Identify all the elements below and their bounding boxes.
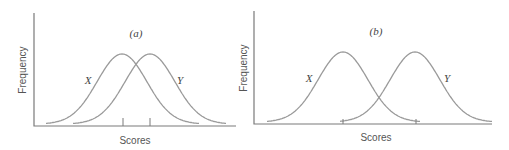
panel-a-title: (a) xyxy=(130,27,143,40)
panel-b-curve-x xyxy=(267,52,420,121)
panel-b-label-x: X xyxy=(305,72,314,84)
panel-a-label-x: X xyxy=(84,74,93,86)
panel-a-curve-y xyxy=(73,54,226,123)
panel-a: (a) X Y Scores Frequency xyxy=(17,13,236,146)
figure-canvas: (a) X Y Scores Frequency (b) X Y Scores … xyxy=(0,0,509,150)
panel-a-label-y: Y xyxy=(177,74,185,86)
panel-b-ylabel: Frequency xyxy=(238,44,249,91)
panel-b: (b) X Y Scores Frequency xyxy=(238,11,492,143)
panel-b-label-y: Y xyxy=(444,72,452,84)
panel-b-xlabel: Scores xyxy=(360,132,391,143)
panel-a-xlabel: Scores xyxy=(119,135,150,146)
panel-a-curve-x xyxy=(46,54,199,123)
panel-b-title: (b) xyxy=(370,25,383,38)
panel-b-curve-y xyxy=(340,52,492,121)
panel-a-ylabel: Frequency xyxy=(17,46,28,93)
